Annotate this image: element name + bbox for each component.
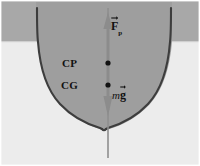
gravity-symbol-stack: g: [120, 89, 126, 101]
stability-diagram-figure: CP CG F p m g: [0, 0, 200, 166]
gravity-symbol-glyph: g: [120, 88, 126, 102]
center-of-gravity-label: CG: [61, 80, 78, 91]
diagram-canvas: [0, 0, 200, 166]
buoyancy-subscript-glyph: p: [118, 29, 122, 37]
buoyancy-force-label: F p: [111, 20, 122, 35]
center-of-pressure-label: CP: [62, 58, 77, 69]
cg-marker-dot: [105, 82, 110, 87]
mass-symbol-glyph: m: [112, 89, 120, 101]
keel-tip: [102, 129, 106, 130]
cp-marker-dot: [105, 60, 110, 65]
weight-force-label: m g: [112, 89, 126, 101]
